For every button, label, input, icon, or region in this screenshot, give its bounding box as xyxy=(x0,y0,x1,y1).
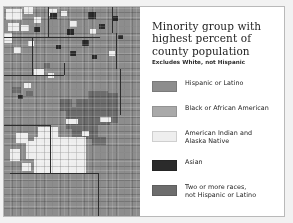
choropleth-map[interactable] xyxy=(4,7,140,216)
legend-label-hispanic-or-latino: Hispanic or Latino xyxy=(185,80,285,88)
legend-subtitle: Excludes White, not Hispanic xyxy=(152,59,280,66)
legend-title: Minority group with highest percent of c… xyxy=(152,20,278,57)
state-boundary-line xyxy=(98,173,99,216)
legend-swatch-asian xyxy=(152,160,177,171)
state-boundary-line xyxy=(120,69,121,115)
legend-label-two-or-more-races: Two or more races,not Hispanic or Latino xyxy=(185,184,285,200)
state-boundary-line xyxy=(10,173,98,174)
legend-swatch-black-or-african-american xyxy=(152,106,177,117)
state-boundary-line xyxy=(64,63,65,75)
legend-swatch-american-indian-and-alaska-native xyxy=(152,131,177,142)
state-boundary-line xyxy=(4,37,100,38)
state-boundary-line xyxy=(112,7,113,33)
map-legend: Minority group with highest percent of c… xyxy=(140,7,284,216)
state-boundary-line xyxy=(32,37,33,75)
figure-frame: Minority group with highest percent of c… xyxy=(3,6,285,217)
legend-swatch-hispanic-or-latino xyxy=(152,81,177,92)
legend-label-black-or-african-american: Black or African American xyxy=(185,105,285,113)
state-boundary-line xyxy=(50,125,51,173)
state-boundary-line xyxy=(48,7,49,37)
state-boundary-line xyxy=(4,75,64,76)
map-figure: Minority group with highest percent of c… xyxy=(0,0,293,223)
legend-swatch-two-or-more-races xyxy=(152,185,177,196)
legend-label-asian: Asian xyxy=(185,159,285,167)
legend-label-american-indian-and-alaska-native: American Indian andAlaska Native xyxy=(185,130,285,146)
state-boundary-line xyxy=(4,125,50,126)
state-boundary-line xyxy=(116,33,117,69)
